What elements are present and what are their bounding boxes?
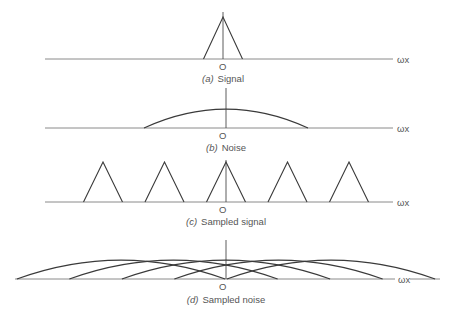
origin-label: O [219,61,226,72]
origin-label: O [219,281,226,292]
origin-label: O [219,204,226,215]
noise-hump [17,260,225,279]
triangle-spectrum [145,162,184,202]
axis-label: ωx [398,274,410,285]
sampling-spectra-diagram: O ωx (a)Signal O ωx (b)Noise O ωx (c)Sam… [0,0,450,319]
panel-signal: O ωx (a)Signal [45,12,409,84]
panel-noise: O ωx (b)Noise [45,88,409,153]
caption: (a)Signal [202,73,244,84]
caption: (d)Sampled noise [187,294,265,305]
noise-hump [69,260,277,279]
axis-label: ωx [397,197,409,208]
axis-label: ωx [397,54,409,65]
triangle-spectrum [84,162,123,202]
origin-label: O [219,130,226,141]
noise-hump [174,260,382,279]
caption: (b)Noise [206,142,246,153]
triangle-spectrum [268,162,307,202]
axis-label: ωx [397,123,409,134]
panel-sampled-signal: O ωx (c)Sampled signal [45,160,409,227]
panel-sampled-noise: O ωx (d)Sampled noise [15,240,440,305]
caption: (c)Sampled signal [186,216,266,227]
triangle-spectrum [330,162,369,202]
